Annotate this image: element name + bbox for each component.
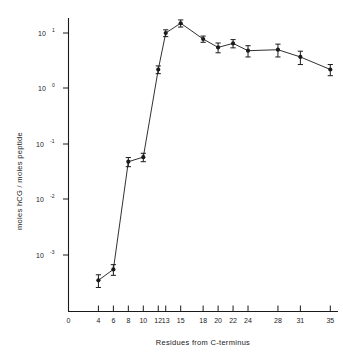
x-tick-marks [69, 306, 331, 312]
data-point [201, 37, 205, 41]
y-tick-label-3-mantissa: 10 [36, 196, 44, 203]
data-point [96, 278, 100, 282]
x-tick-label: 8 [126, 317, 130, 324]
y-tick-label-2-exponent: -1 [50, 138, 55, 144]
x-tick-label: 4 [96, 317, 100, 324]
data-point [231, 41, 235, 45]
x-tick-label: 18 [199, 317, 207, 324]
x-tick-label: 28 [274, 317, 282, 324]
x-tick-label: 13 [162, 317, 170, 324]
data-point [216, 45, 220, 49]
axis-lines [68, 18, 338, 312]
chart-figure: 10 1 10 0 10 -1 10 -2 10 -3 moles hCG / … [0, 0, 343, 363]
y-tick-label-0-mantissa: 10 [38, 30, 46, 37]
data-point [298, 55, 302, 59]
y-tick-labels: 10 1 10 0 10 -1 10 -2 10 -3 [36, 27, 55, 259]
x-tick-labels: 04681012131518202224283135 [67, 317, 335, 324]
data-point [179, 21, 183, 25]
y-tick-label-2-mantissa: 10 [36, 141, 44, 148]
x-tick-label: 6 [111, 317, 115, 324]
data-point [126, 160, 130, 164]
data-point [156, 67, 160, 71]
x-tick-label: 10 [139, 317, 147, 324]
y-tick-label-1-exponent: 0 [52, 82, 55, 88]
data-point [276, 48, 280, 52]
x-tick-label: 22 [229, 317, 237, 324]
y-axis-title: moles hCG / moles peptide [15, 132, 24, 230]
x-tick-label: 31 [296, 317, 304, 324]
y-tick-label-3-exponent: -2 [50, 193, 55, 199]
data-point [246, 49, 250, 53]
data-point [111, 267, 115, 271]
y-tick-label-4-exponent: -3 [50, 249, 55, 255]
data-point [141, 155, 145, 159]
data-point [328, 67, 332, 71]
y-tick-label-0-exponent: 1 [52, 27, 55, 33]
x-tick-label: 20 [214, 317, 222, 324]
log-line-chart: 10 1 10 0 10 -1 10 -2 10 -3 moles hCG / … [0, 0, 343, 363]
x-tick-label: 35 [326, 317, 334, 324]
error-bars [96, 20, 333, 288]
x-axis-title: Residues from C-terminus [156, 338, 250, 347]
x-tick-label: 15 [177, 317, 185, 324]
y-tick-marks [63, 33, 69, 255]
y-tick-label-1-mantissa: 10 [38, 85, 46, 92]
x-tick-label: 0 [67, 317, 71, 324]
data-markers [96, 21, 332, 282]
series-line [98, 23, 330, 280]
data-point [164, 31, 168, 35]
x-tick-label: 24 [244, 317, 252, 324]
y-tick-label-4-mantissa: 10 [36, 252, 44, 259]
